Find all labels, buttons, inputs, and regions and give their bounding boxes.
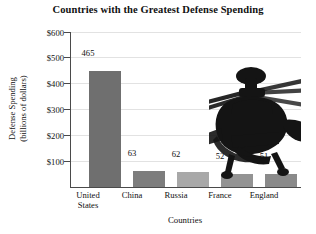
y-tick-label-500: $500 [24, 53, 64, 63]
apache-helicopter-image [209, 58, 301, 188]
y-tick-label-400: $400 [24, 79, 64, 89]
bar-value-france: 52 [197, 151, 243, 161]
bar-value-russia: 62 [153, 149, 199, 159]
x-tick-label-england: England [237, 190, 291, 200]
bar-value-england: 51 [241, 151, 287, 161]
bar-france[interactable] [221, 174, 253, 187]
x-axis-title: Countries [70, 215, 300, 225]
y-tick-label-600: $600 [24, 28, 64, 38]
chart-figure: Countries with the Greatest Defense Spen… [0, 0, 316, 234]
gridline-600 [71, 32, 301, 33]
y-tick-label-200: $200 [24, 131, 64, 141]
y-axis-title-line-1: Defense Spending [7, 34, 18, 184]
chart-title: Countries with the Greatest Defense Spen… [0, 4, 316, 15]
y-tick-label-300: $300 [24, 105, 64, 115]
bar-value-china: 63 [109, 148, 155, 158]
bar-united-states[interactable] [89, 71, 121, 187]
bar-china[interactable] [133, 171, 165, 187]
bar-value-united-states: 465 [65, 48, 111, 58]
bar-russia[interactable] [177, 172, 209, 187]
bar-england[interactable] [265, 174, 297, 187]
x-tick-label-line-2: States [61, 200, 115, 210]
y-tick-label-100: $100 [24, 157, 64, 167]
